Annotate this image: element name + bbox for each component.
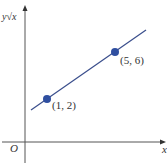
point-label-2: (5, 6) [120,54,144,67]
x-axis-label: x [161,143,167,155]
y-axis-label: y√x [1,11,17,22]
data-point-2 [111,48,119,56]
data-point-1 [43,95,51,103]
origin-label: O [10,142,18,154]
point-label-1: (1, 2) [52,99,76,112]
chart: (1, 2) (5, 6) O x y√x [0,0,167,165]
y-axis-arrow-icon [23,5,28,11]
